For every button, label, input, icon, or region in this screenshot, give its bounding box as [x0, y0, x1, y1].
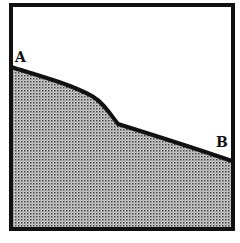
point-label-b: B — [216, 135, 228, 149]
profile-diagram — [0, 0, 240, 243]
shaded-region — [11, 67, 232, 228]
point-label-a: A — [15, 50, 26, 64]
